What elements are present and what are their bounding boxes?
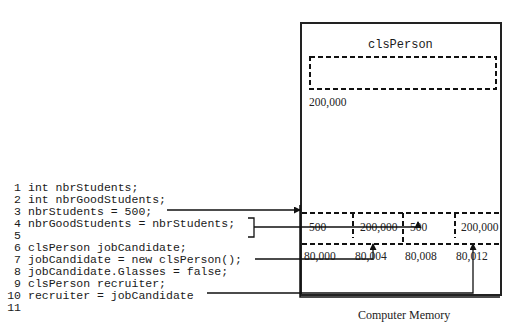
arrow-line4-to-80008	[248, 218, 418, 237]
diagram-overlay	[0, 0, 518, 333]
heap-object-dashed-box	[310, 57, 496, 89]
arrow-line10-to-80012	[207, 244, 473, 293]
memory-inner-frame	[300, 205, 500, 297]
arrow-line7-to-80004	[255, 244, 373, 259]
memory-cells-dashed-row	[302, 213, 500, 244]
